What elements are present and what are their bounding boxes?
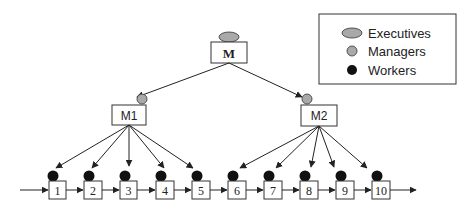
worker-node-10: 10 [372,171,391,200]
worker-label: 10 [375,184,387,198]
legend-label-executives: Executives [368,26,431,41]
worker-label: 4 [162,184,168,198]
worker-circle-icon [228,171,239,182]
worker-circle-icon [120,171,131,182]
worker-circle-icon [347,65,357,75]
worker-label: 1 [55,184,61,198]
legend: Executives Managers Workers [319,14,456,84]
worker-node-2: 2 [84,171,103,200]
worker-circle-icon [264,171,275,182]
worker-circle-icon [300,171,311,182]
hierarchy-diagram: Executives Managers Workers M M1 M2 [0,0,464,218]
worker-label: 6 [234,184,240,198]
manager-node-m1: M1 [112,94,147,125]
manager-circle-icon [137,94,147,104]
worker-circle-icon [156,171,167,182]
worker-label: 8 [306,184,312,198]
manager-label-m2: M2 [311,109,328,123]
worker-label: 2 [90,184,96,198]
worker-label: 5 [198,184,204,198]
legend-label-managers: Managers [368,44,426,59]
worker-node-6: 6 [228,171,247,200]
worker-label: 9 [342,184,348,198]
worker-node-3: 3 [120,171,138,200]
worker-node-1: 1 [48,171,67,200]
arrow-m-to-m1 [137,63,229,97]
worker-node-4: 4 [156,171,175,200]
executive-ellipse-icon [342,28,362,38]
worker-label: 3 [126,184,132,198]
m1-arrows [56,125,193,168]
worker-circle-icon [48,171,59,182]
worker-circle-icon [84,171,95,182]
manager-circle-icon [347,46,357,56]
executive-label: M [223,46,235,61]
worker-node-9: 9 [336,171,355,200]
manager-label-m1: M1 [121,109,138,123]
manager-node-m2: M2 [301,94,337,126]
executive-ellipse-icon [219,32,239,42]
arrow-m-to-m2 [229,63,302,97]
worker-chain: 1 2 3 4 5 6 [20,171,416,200]
worker-circle-icon [336,171,347,182]
executive-node: M [211,32,247,63]
legend-label-workers: Workers [368,63,417,78]
worker-circle-icon [372,171,383,182]
worker-node-8: 8 [300,171,319,200]
worker-label: 7 [270,184,276,198]
manager-circle-icon [302,94,312,104]
worker-node-7: 7 [264,171,283,200]
m2-arrows [240,126,367,168]
worker-node-5: 5 [192,171,211,200]
worker-circle-icon [192,171,203,182]
